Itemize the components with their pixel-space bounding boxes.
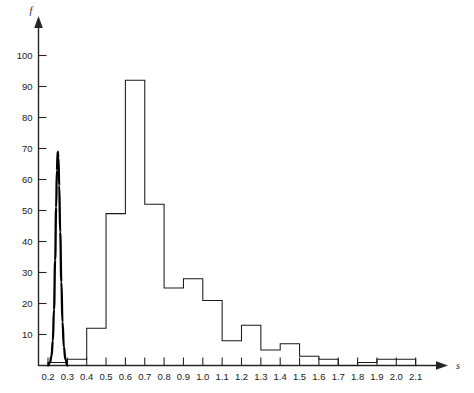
x-axis [39, 361, 449, 370]
x-tick-label: 1.9 [370, 371, 383, 382]
x-tick-label: 0.2 [41, 371, 54, 382]
y-tick-label: 50 [22, 205, 33, 216]
x-tick-label: 0.4 [80, 371, 93, 382]
y-tick-label: 100 [17, 50, 33, 61]
x-tick-label: 0.6 [119, 371, 132, 382]
histogram-outline [48, 80, 416, 365]
x-tick-label: 1.5 [293, 371, 306, 382]
x-tick-label: 1.8 [351, 371, 364, 382]
y-tick-group: 102030405060708090100 [17, 50, 47, 340]
y-tick-label: 40 [22, 236, 33, 247]
x-tick-label: 0.5 [99, 371, 112, 382]
y-tick-label: 30 [22, 267, 33, 278]
y-axis [34, 16, 43, 366]
y-tick-label: 10 [22, 329, 33, 340]
overlay-curve-path [48, 152, 67, 366]
histogram-chart-canvas: f s 102030405060708090100 0.20.30.40.50.… [0, 0, 474, 393]
x-tick-label: 1.0 [196, 371, 209, 382]
y-tick-label: 70 [22, 143, 33, 154]
y-tick-label: 90 [22, 81, 33, 92]
x-tick-label: 0.7 [138, 371, 151, 382]
x-tick-label: 0.8 [157, 371, 170, 382]
x-tick-label: 1.1 [216, 371, 229, 382]
x-tick-label: 0.9 [177, 371, 190, 382]
x-tick-label: 1.6 [312, 371, 325, 382]
y-axis-label: f [30, 5, 34, 16]
x-tick-label: 1.4 [274, 371, 287, 382]
y-tick-label: 20 [22, 298, 33, 309]
x-tick-label: 2.0 [390, 371, 403, 382]
x-tick-label: 1.3 [254, 371, 267, 382]
x-axis-arrowhead [436, 361, 448, 370]
x-axis-label: s [456, 360, 460, 371]
y-tick-label: 60 [22, 174, 33, 185]
x-tick-label: 0.3 [61, 371, 74, 382]
x-tick-group: 0.20.30.40.50.60.70.80.91.01.11.21.31.41… [41, 358, 422, 382]
y-axis-arrowhead [34, 16, 43, 28]
x-tick-label: 1.7 [332, 371, 345, 382]
x-tick-label: 2.1 [409, 371, 422, 382]
histogram-figure: f s 102030405060708090100 0.20.30.40.50.… [0, 0, 474, 393]
overlay-curve-group [48, 152, 67, 366]
histogram-bars [48, 80, 416, 365]
y-tick-label: 80 [22, 112, 33, 123]
x-tick-label: 1.2 [235, 371, 248, 382]
